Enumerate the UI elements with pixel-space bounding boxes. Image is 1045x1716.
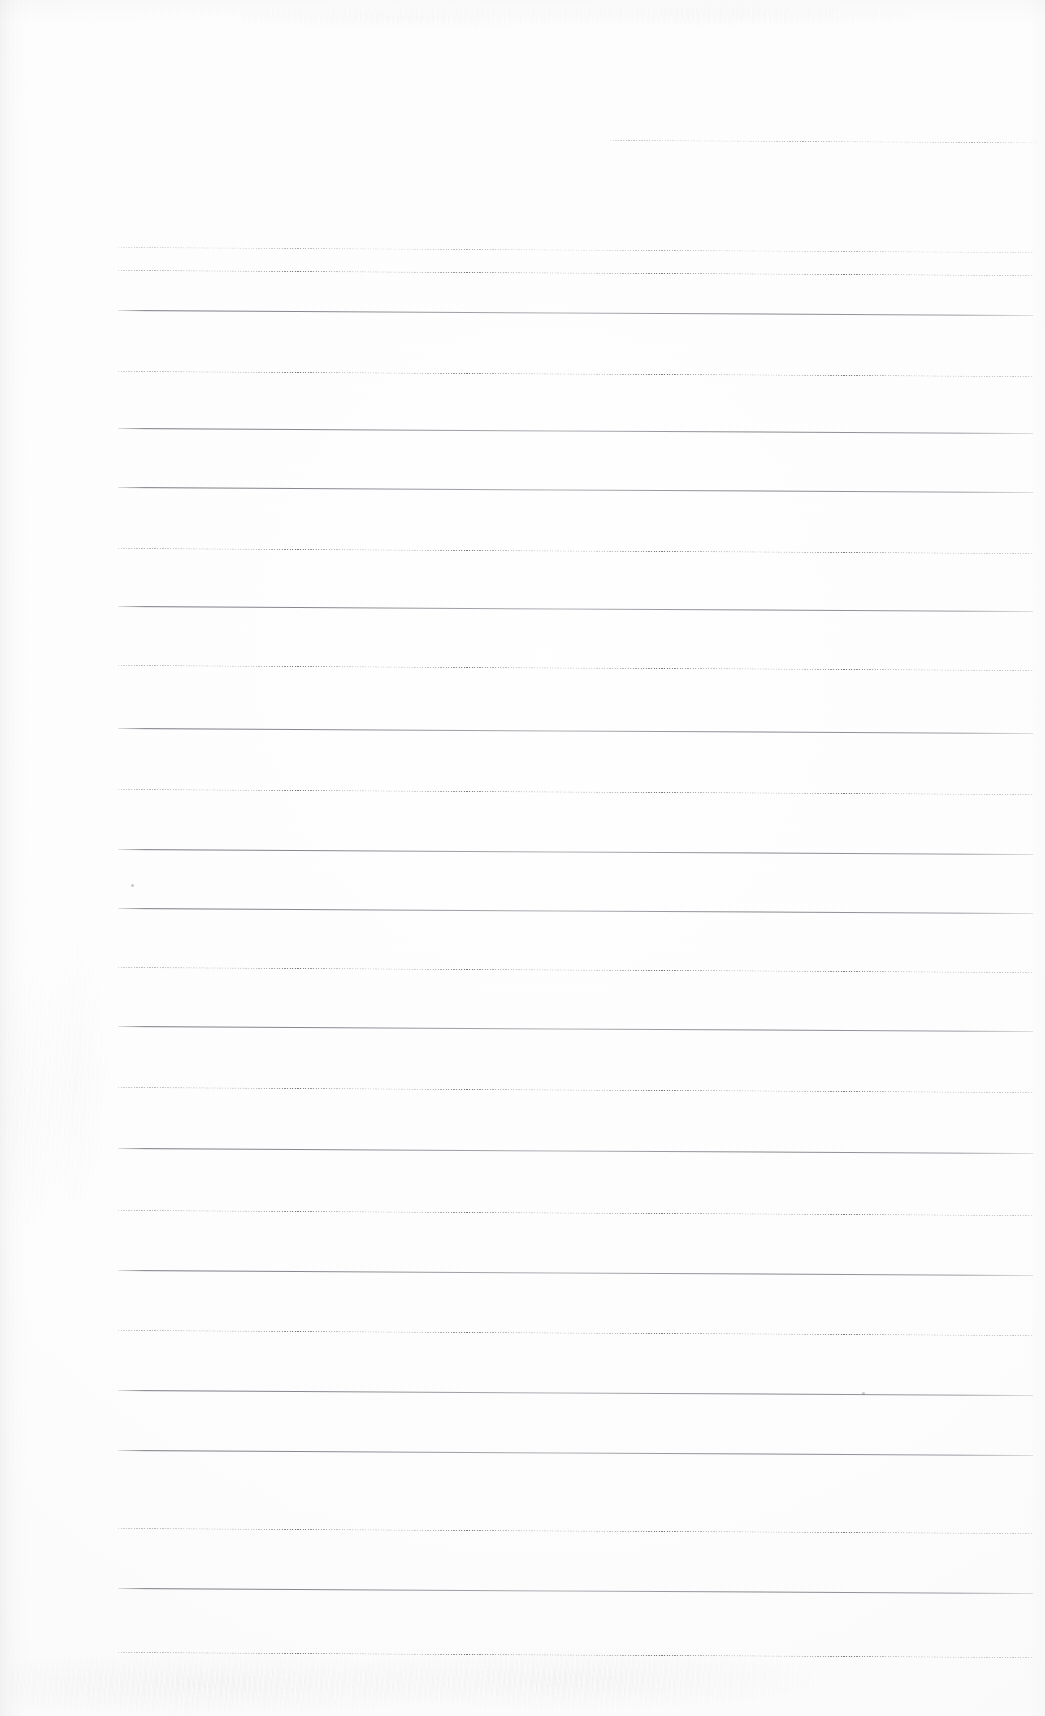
scanned-page <box>0 0 1045 1716</box>
paper-background <box>0 0 1045 1716</box>
